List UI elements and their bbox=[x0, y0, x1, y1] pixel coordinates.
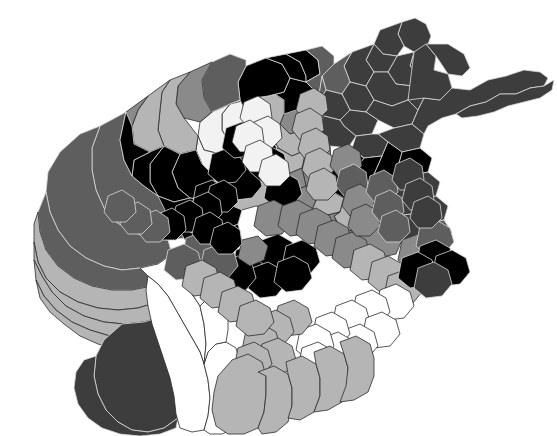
afghanistan-district-choropleth bbox=[0, 0, 557, 436]
map-canvas bbox=[0, 0, 557, 436]
